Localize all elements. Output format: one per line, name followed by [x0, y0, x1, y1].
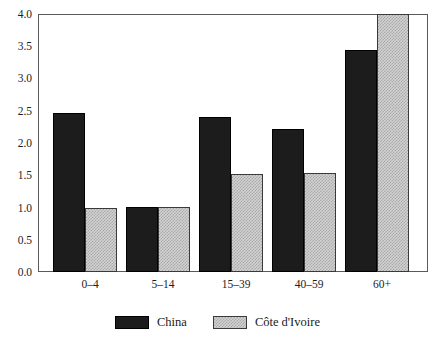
x-tick-label-0-4: 0–4	[53, 278, 127, 290]
y-tick-label: 3.0	[0, 73, 38, 83]
bars-layer	[38, 14, 428, 272]
bar-china-60plus	[345, 50, 377, 272]
legend-swatch-icon-cote-divoire	[213, 316, 247, 329]
bar-china-40-59	[272, 129, 304, 272]
legend-item-cote-divoire: Côte d'Ivoire	[213, 315, 320, 330]
y-axis: 4.0 3.5 3.0 2.5 2.0 1.5 1.0 0.5 0.0	[0, 0, 38, 344]
y-tick-label: 1.5	[0, 170, 38, 180]
bar-chart: 4.0 3.5 3.0 2.5 2.0 1.5 1.0 0.5 0.0 0–4 …	[0, 0, 435, 344]
bar-china-5-14	[126, 207, 158, 272]
bar-civ-60plus	[377, 14, 409, 272]
chart-legend: China Côte d'Ivoire	[0, 310, 435, 334]
bar-civ-40-59	[304, 173, 336, 272]
x-tick-label-5-14: 5–14	[126, 278, 200, 290]
legend-item-china: China	[115, 315, 187, 330]
legend-label-cote-divoire: Côte d'Ivoire	[255, 315, 320, 330]
bar-civ-15-39	[231, 174, 263, 272]
y-tick-label: 0.0	[0, 267, 38, 277]
bar-china-0-4	[53, 113, 85, 272]
bar-china-15-39	[199, 117, 231, 272]
x-tick-label-40-59: 40–59	[272, 278, 346, 290]
y-tick-label: 2.0	[0, 138, 38, 148]
y-tick-label: 4.0	[0, 9, 38, 19]
bar-civ-5-14	[158, 207, 190, 272]
y-tick-label: 1.0	[0, 203, 38, 213]
y-tick-label: 3.5	[0, 41, 38, 51]
x-tick-label-15-39: 15–39	[199, 278, 273, 290]
y-tick-label: 0.5	[0, 235, 38, 245]
bar-civ-0-4	[85, 208, 117, 273]
x-tick-label-60plus: 60+	[345, 278, 419, 290]
legend-label-china: China	[157, 315, 187, 330]
y-tick-label: 2.5	[0, 106, 38, 116]
legend-swatch-icon-china	[115, 316, 149, 329]
